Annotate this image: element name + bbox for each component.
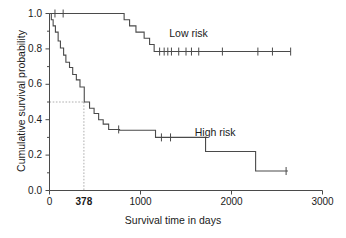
y-tick-label: 0.6	[10, 78, 42, 89]
y-tick-label: 0.0	[10, 185, 42, 196]
y-tick-label: 0.8	[10, 43, 42, 54]
x-tick-label: 3000	[298, 196, 346, 207]
y-tick-label: 0.4	[10, 114, 42, 125]
median-reference-lines	[50, 102, 84, 191]
x-tick-label: 2000	[207, 196, 257, 207]
x-axis-label: Survival time in days	[0, 214, 346, 226]
y-tick-label: 0.2	[10, 149, 42, 160]
axis-ticks	[46, 14, 323, 195]
series-label-low-risk: Low risk	[169, 27, 208, 39]
plot-axes	[50, 14, 323, 191]
x-tick-label: 1000	[116, 196, 166, 207]
survival-chart: Cumulative survival probability Survival…	[0, 0, 346, 238]
x-tick-label: 378	[59, 196, 109, 207]
series-label-high-risk: High risk	[195, 126, 236, 138]
y-tick-label: 1.0	[10, 8, 42, 19]
